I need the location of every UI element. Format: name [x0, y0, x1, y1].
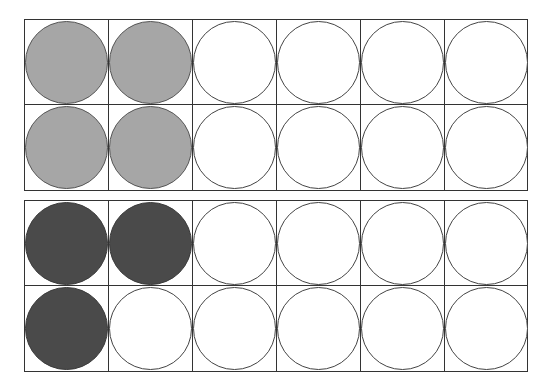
frame-cell	[361, 201, 445, 286]
frame-cell	[193, 105, 277, 190]
empty-counter-circle	[361, 21, 444, 104]
frame-cell	[445, 105, 528, 190]
frame-cell	[193, 286, 277, 371]
empty-counter-circle	[445, 287, 528, 370]
frame-cell	[277, 105, 361, 190]
frame-cell	[109, 201, 193, 286]
frame-cell	[445, 20, 528, 105]
frame-cell	[193, 20, 277, 105]
empty-counter-circle	[193, 287, 276, 370]
frame-cell	[277, 286, 361, 371]
frame-cell	[25, 201, 109, 286]
frame-cell	[361, 105, 445, 190]
light-counter-circle	[109, 106, 192, 189]
frame-cell	[361, 286, 445, 371]
empty-counter-circle	[193, 106, 276, 189]
dark-counter-circle	[25, 202, 108, 285]
light-counter-circle	[25, 106, 108, 189]
empty-counter-circle	[277, 287, 360, 370]
empty-counter-circle	[361, 106, 444, 189]
frame-cell	[277, 20, 361, 105]
light-counter-circle	[25, 21, 108, 104]
empty-counter-circle	[277, 106, 360, 189]
frame-cell	[445, 201, 528, 286]
empty-counter-circle	[361, 202, 444, 285]
frame-cell	[25, 20, 109, 105]
frame-cell	[109, 20, 193, 105]
empty-counter-circle	[193, 202, 276, 285]
frame-cell	[109, 105, 193, 190]
frame-cell	[25, 105, 109, 190]
frame-cell	[109, 286, 193, 371]
empty-counter-circle	[361, 287, 444, 370]
empty-counter-circle	[277, 21, 360, 104]
frame-cell	[277, 201, 361, 286]
empty-counter-circle	[445, 202, 528, 285]
empty-counter-circle	[277, 202, 360, 285]
empty-counter-circle	[445, 21, 528, 104]
empty-counter-circle	[445, 106, 528, 189]
frame-cell	[193, 201, 277, 286]
empty-counter-circle	[193, 21, 276, 104]
top-counter-frame	[24, 19, 528, 191]
bottom-counter-frame	[24, 200, 528, 372]
light-counter-circle	[109, 21, 192, 104]
empty-counter-circle	[109, 287, 192, 370]
frame-cell	[361, 20, 445, 105]
dark-counter-circle	[109, 202, 192, 285]
dark-counter-circle	[25, 287, 108, 370]
frame-cell	[25, 286, 109, 371]
frame-cell	[445, 286, 528, 371]
